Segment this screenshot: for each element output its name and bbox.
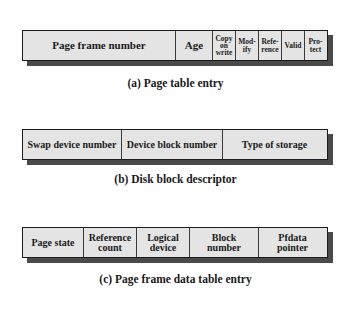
field-pfdata-pointer: Pfdata pointer [259,228,326,257]
caption-page-frame-data-table-entry: (c) Page frame data table entry [0,273,351,285]
page-frame-data-table-entry-record: Page state Reference count Logical devic… [22,227,328,258]
field-protect: Pro- tect [305,31,326,60]
caption-page-table-entry: (a) Page table entry [0,77,351,89]
field-page-state: Page state [23,228,84,257]
field-copy-on-write: Copy on write [213,31,236,60]
field-modify: Mod- ify [236,31,259,60]
disk-block-descriptor-record: Swap device number Device block number T… [22,129,328,160]
field-reference-count: Reference count [84,228,137,257]
page-table-entry-record: Page frame number Age Copy on write Mod-… [22,30,328,61]
caption-disk-block-descriptor: (b) Disk block descriptor [0,173,351,185]
field-block-number: Block number [190,228,259,257]
field-logical-device: Logical device [137,228,190,257]
field-swap-device-number: Swap device number [23,130,122,159]
field-reference: Refe- rence [259,31,282,60]
field-type-of-storage: Type of storage [223,130,326,159]
field-page-frame-number: Page frame number [23,31,176,60]
field-valid: Valid [282,31,305,60]
field-device-block-number: Device block number [122,130,223,159]
field-age: Age [176,31,213,60]
